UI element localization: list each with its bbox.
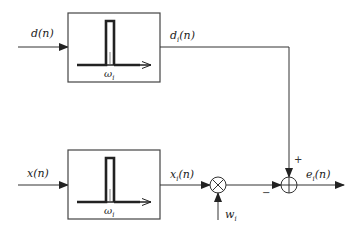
adder-icon — [281, 177, 297, 193]
label-x-i-n: xi(n) — [170, 169, 194, 183]
minus-sign: − — [262, 188, 270, 198]
adaptive-subband-diagram: d(n) di(n) ωi x(n) xi(n) ωi wi ei(n) + − — [0, 0, 361, 233]
label-omega-bottom: ωi — [104, 206, 114, 219]
signal-d-i-line — [160, 47, 289, 177]
plus-sign: + — [294, 155, 302, 165]
label-omega-top: ωi — [104, 69, 114, 82]
label-e-i-n: ei(n) — [306, 169, 330, 183]
label-w-i: wi — [225, 209, 237, 223]
multiplier-icon — [210, 177, 226, 193]
label-x-n: x(n) — [27, 168, 49, 179]
label-d-i-n: di(n) — [170, 30, 195, 44]
label-d-n: d(n) — [31, 28, 54, 39]
